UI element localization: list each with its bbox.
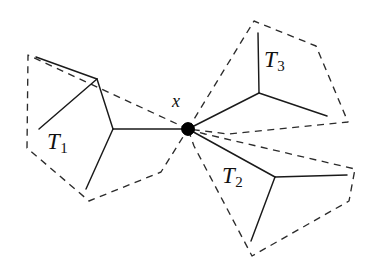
label-center-vertex: x [172, 92, 180, 110]
tree-edge-t2-right-leaf [275, 175, 347, 177]
center-vertex-x-radius-helper [182, 123, 194, 135]
label-subtree-t2-base: T [222, 163, 235, 188]
region-boundaries-group [27, 21, 355, 256]
tree-edge-t1-leaf-lower [86, 129, 113, 189]
region-boundary-t1 [27, 55, 188, 201]
label-subtree-t3: T3 [264, 48, 285, 74]
region-boundary-t2 [188, 129, 355, 256]
tree-edges-group [36, 33, 347, 241]
label-subtree-t3-base: T [264, 47, 277, 72]
tree-edge-t3-to-center [188, 93, 259, 129]
figure-container: x T1 T2 T3 [0, 0, 380, 267]
tree-edge-t2-bottom-leaf [251, 177, 275, 241]
label-subtree-t1: T1 [47, 130, 68, 156]
tree-edge-t3-top-leaf [258, 33, 259, 93]
label-subtree-t1-base: T [47, 129, 60, 154]
label-subtree-t3-index: 3 [277, 58, 285, 74]
tree-edge-t1-leaf-upper [36, 57, 97, 79]
label-subtree-t2: T2 [222, 164, 243, 190]
tree-edge-t1-leaf-left [39, 79, 97, 129]
label-subtree-t2-index: 2 [235, 174, 243, 190]
tree-edge-t1-branch-node [97, 79, 113, 129]
label-subtree-t1-index: 1 [60, 140, 68, 156]
tree-edge-t3-right-leaf [259, 93, 327, 116]
